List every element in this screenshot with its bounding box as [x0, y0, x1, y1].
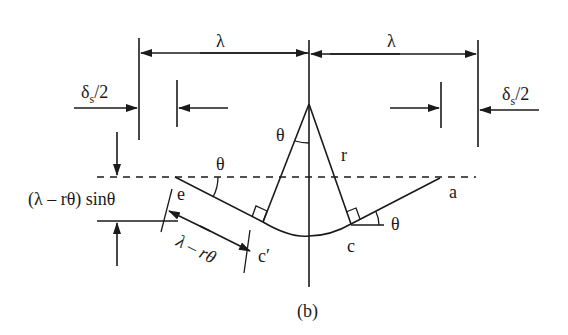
theta-right-label: θ — [391, 214, 400, 234]
delta-left-label: δs/2 — [81, 82, 108, 106]
height-expression-label: (λ – rθ) sinθ — [28, 189, 115, 210]
lambda-right-label: λ — [387, 31, 396, 51]
geometry-diagram: λ λ δs/2 δs/2 θ θ θ r e a c c′ (λ – rθ) … — [0, 0, 568, 335]
point-c-prime-label: c′ — [258, 246, 270, 266]
radius-left — [263, 104, 309, 222]
lambda-left-label: λ — [216, 31, 225, 51]
apex-angle-arc — [295, 141, 309, 143]
theta-apex-label: θ — [276, 125, 285, 145]
point-e-label: e — [177, 184, 185, 204]
delta-right-label: δs/2 — [502, 84, 529, 108]
point-c-label: c — [347, 236, 355, 256]
theta-left-arc — [213, 177, 218, 197]
theta-right-arc — [376, 212, 379, 225]
radius-label: r — [341, 145, 347, 165]
tick-c-prime — [244, 230, 250, 273]
tick-e — [161, 189, 172, 232]
figure-caption: (b) — [297, 301, 318, 322]
length-expression-label: λ – rθ — [172, 230, 219, 267]
theta-left-label: θ — [216, 154, 225, 174]
bent-profile-path — [175, 177, 440, 236]
point-a-label: a — [449, 182, 457, 202]
